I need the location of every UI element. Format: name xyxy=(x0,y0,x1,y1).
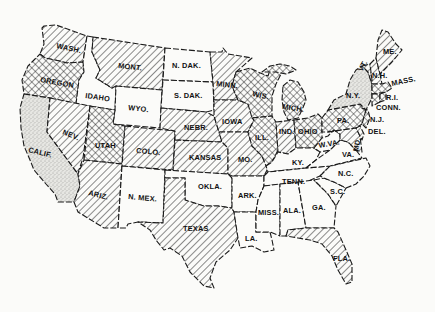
label-texas: TEXAS xyxy=(183,224,209,233)
label-conn: CONN. xyxy=(376,103,401,112)
state-ind xyxy=(276,120,296,154)
label-ri: R.I. xyxy=(386,93,398,102)
label-ill: ILL. xyxy=(255,133,269,142)
state-mich xyxy=(282,80,306,120)
label-ndak: N. DAK. xyxy=(172,61,201,70)
label-ind: IND. xyxy=(279,127,295,136)
label-nj: N.J. xyxy=(370,115,384,124)
label-fla: FLA. xyxy=(333,254,350,263)
label-kansas: KANSAS xyxy=(189,153,221,162)
label-ohio: OHIO xyxy=(298,127,318,136)
label-sdak: S. DAK. xyxy=(174,91,203,100)
label-ark: ARK. xyxy=(238,191,257,200)
label-pa: PA. xyxy=(337,116,349,125)
label-sc: S.C. xyxy=(330,187,345,196)
label-mass: MASS. xyxy=(391,74,417,88)
label-ky: KY. xyxy=(292,158,304,167)
label-la: LA. xyxy=(245,234,258,243)
us-state-map: WASH. OREGON CALIF. IDAHO NEV. MONT. WYO… xyxy=(0,0,435,312)
label-ala: ALA. xyxy=(283,206,301,215)
label-nh: N.H. xyxy=(372,71,388,80)
label-tenn: TENN. xyxy=(282,177,305,186)
label-ga: GA. xyxy=(312,203,326,212)
label-miss: MISS. xyxy=(258,208,279,217)
label-del: DEL. xyxy=(368,127,386,136)
label-okla: OKLA. xyxy=(198,182,222,191)
label-iowa: IOWA xyxy=(222,117,243,126)
label-nebr: NEBR. xyxy=(184,123,208,132)
label-nc: N.C. xyxy=(338,169,354,178)
label-ny: N.Y. xyxy=(346,91,360,100)
label-me: ME. xyxy=(383,47,397,56)
state-mich-up xyxy=(262,64,296,74)
label-mo: MO. xyxy=(238,155,253,164)
state-ny xyxy=(328,66,372,110)
label-utah: UTAH xyxy=(95,141,116,150)
